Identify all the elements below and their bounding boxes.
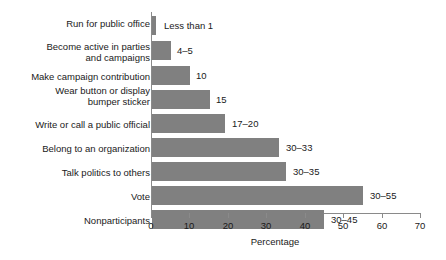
- x-axis-tick-label: 60: [367, 220, 397, 232]
- bar-value-label: 30–33: [286, 138, 312, 157]
- x-axis-tick: [266, 213, 267, 218]
- bar: [152, 162, 286, 181]
- x-axis-tick: [151, 213, 152, 218]
- bar-value-label: Less than 1: [164, 16, 213, 35]
- category-label: Talk politics to others: [18, 167, 150, 178]
- bar: [152, 114, 225, 133]
- category-label: Vote: [18, 191, 150, 202]
- bar: [152, 16, 156, 35]
- bar-value-label: 30–55: [370, 186, 396, 205]
- x-axis-title-text: Percentage: [251, 236, 300, 247]
- bar: [152, 41, 171, 60]
- bar-value-label: 30–35: [293, 162, 319, 181]
- bar: [152, 90, 210, 109]
- x-axis-title: Percentage: [0, 236, 446, 247]
- bar-chart: Run for public office Less than 1 Become…: [0, 0, 446, 260]
- x-axis-tick-label: 0: [136, 220, 166, 232]
- bar: [152, 66, 190, 85]
- bar: [152, 186, 363, 205]
- bar-value-label: 10: [196, 66, 207, 85]
- category-label: Nonparticipants: [18, 215, 150, 226]
- x-axis-tick: [228, 213, 229, 218]
- bar: [152, 138, 279, 157]
- bar-value-label: 17–20: [232, 114, 258, 133]
- x-axis-tick: [189, 213, 190, 218]
- category-label: Become active in parties and campaigns: [18, 41, 150, 63]
- x-axis-tick-label: 20: [213, 220, 243, 232]
- x-axis-tick: [382, 213, 383, 218]
- x-axis-tick: [343, 213, 344, 218]
- x-axis-tick-label: 70: [405, 220, 435, 232]
- x-axis-tick-label: 10: [174, 220, 204, 232]
- bar-value-label: 15: [216, 90, 227, 109]
- x-axis-tick: [420, 213, 421, 218]
- x-axis-tick-label: 50: [328, 220, 358, 232]
- x-axis-tick: [305, 213, 306, 218]
- category-label: Write or call a public official: [18, 119, 150, 130]
- bar-value-label: 4–5: [177, 41, 193, 60]
- category-label: Belong to an organization: [18, 143, 150, 154]
- x-axis-tick-label: 40: [290, 220, 320, 232]
- category-label: Run for public office: [18, 18, 150, 29]
- x-axis-tick-label: 30: [251, 220, 281, 232]
- category-label: Make campaign contribution: [18, 71, 150, 82]
- category-label: Wear button or display bumper sticker: [18, 85, 150, 107]
